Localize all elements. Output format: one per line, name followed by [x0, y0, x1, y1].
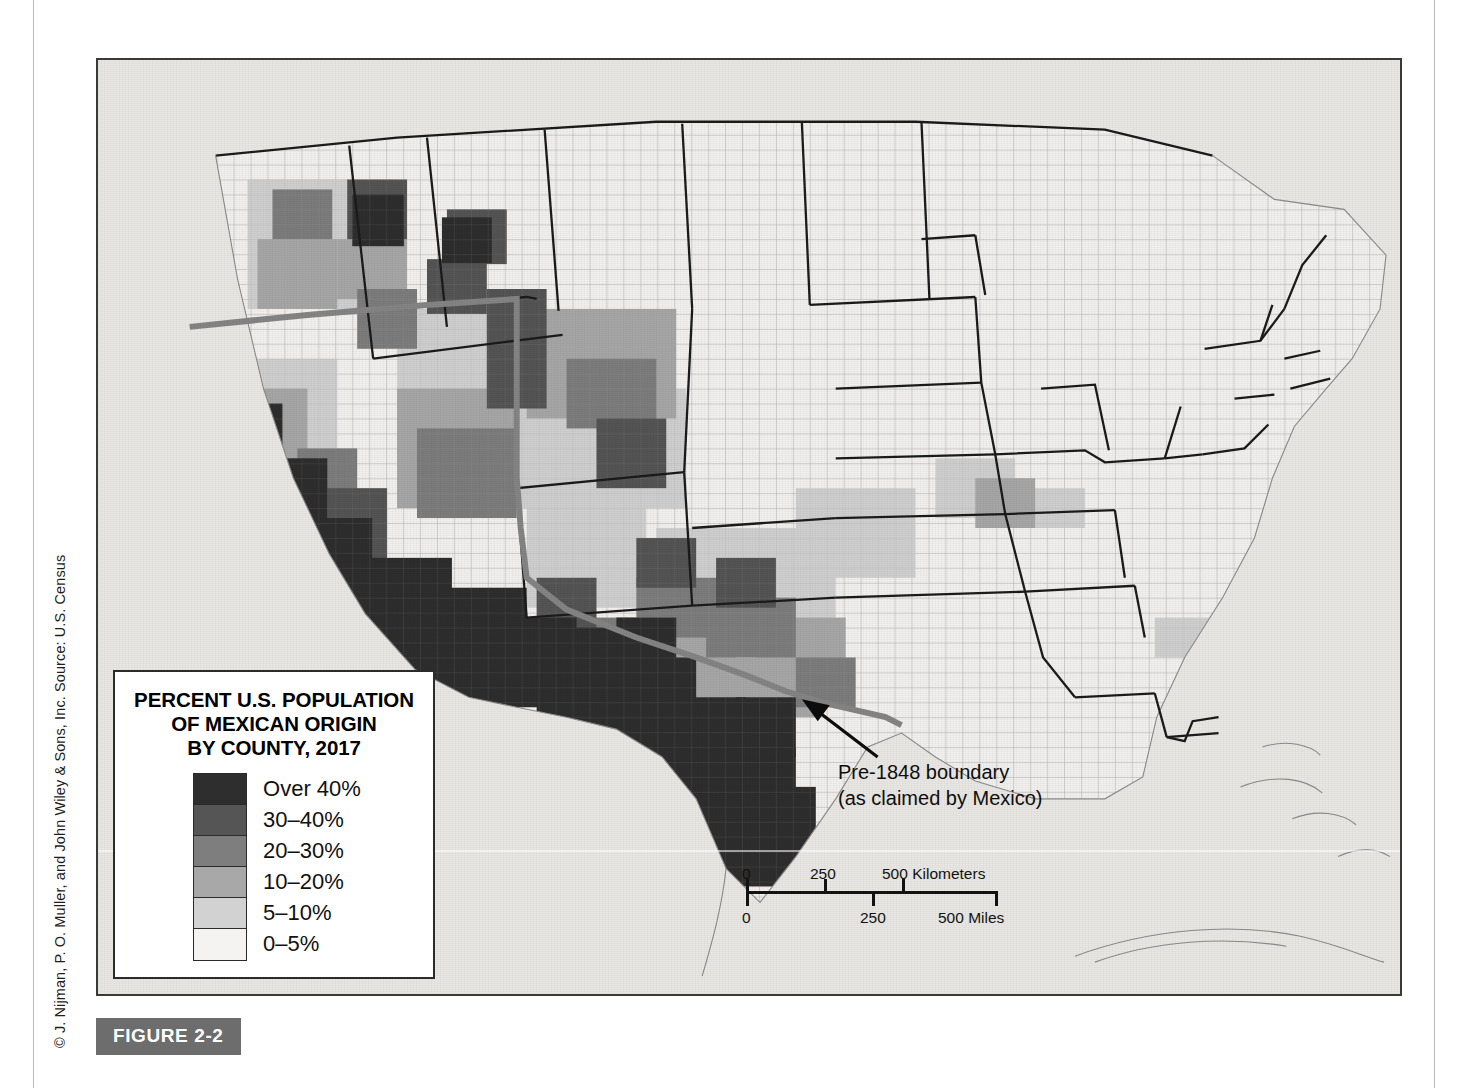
legend-swatch-20-30	[194, 836, 246, 867]
legend-label-20-30: 20–30%	[263, 835, 361, 866]
legend-swatch-over-40	[194, 774, 246, 805]
scale-km-500: 500 Kilometers	[882, 865, 985, 883]
scale-km-labels: 0 250 500 Kilometers	[742, 865, 1014, 885]
legend-swatch-30-40	[194, 805, 246, 836]
legend-label-0-5: 0–5%	[263, 928, 361, 959]
scale-tick-km-0	[746, 879, 749, 893]
legend-label-30-40: 30–40%	[263, 804, 361, 835]
scale-mi-labels: 0 250 500 Miles	[742, 909, 1014, 929]
map-figure: .c0 { fill:#f4f3f1; } .c1 { fill:#d2d2d2…	[96, 58, 1402, 996]
legend-swatch-10-20	[194, 867, 246, 898]
scale-tick-mi-500	[995, 892, 998, 906]
scale-tick-mi-250	[872, 892, 875, 906]
figure-caption: FIGURE 2-2	[96, 1018, 241, 1055]
legend-body: Over 40% 30–40% 20–30% 10–20% 5–10% 0–5%	[127, 773, 421, 961]
legend-title: PERCENT U.S. POPULATION OF MEXICAN ORIGI…	[127, 688, 421, 759]
legend-label-over-40: Over 40%	[263, 773, 361, 804]
scale-tick-mi-0	[746, 892, 749, 906]
map-legend: PERCENT U.S. POPULATION OF MEXICAN ORIGI…	[113, 670, 435, 979]
scale-tick-km-250	[824, 879, 827, 893]
page-rule-left	[33, 0, 34, 1088]
copyright-credit: © J. Nijman, P. O. Muller, and John Wile…	[52, 348, 68, 1048]
map-frame: .c0 { fill:#f4f3f1; } .c1 { fill:#d2d2d2…	[96, 58, 1402, 996]
legend-label-column: Over 40% 30–40% 20–30% 10–20% 5–10% 0–5%	[263, 773, 361, 961]
scale-mi-0: 0	[742, 909, 751, 927]
legend-label-10-20: 10–20%	[263, 866, 361, 897]
scale-mi-250: 250	[860, 909, 886, 927]
map-scale-bar: 0 250 500 Kilometers 0 250 500 Miles	[742, 865, 1014, 933]
legend-label-5-10: 5–10%	[263, 897, 361, 928]
legend-swatch-column	[193, 773, 247, 961]
page-rule-right	[1434, 0, 1435, 1088]
scale-tick-km-500	[902, 879, 905, 893]
legend-swatch-5-10	[194, 898, 246, 929]
pre-1848-boundary-label: Pre-1848 boundary (as claimed by Mexico)	[838, 760, 1043, 811]
legend-swatch-0-5	[194, 929, 246, 960]
scale-mi-500: 500 Miles	[938, 909, 1004, 927]
scale-km-250: 250	[810, 865, 836, 883]
